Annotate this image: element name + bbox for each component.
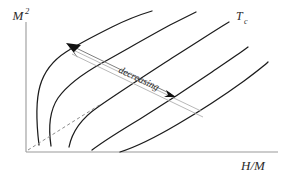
x-axis-label: H/M	[240, 158, 266, 173]
arrott-plot-figure: M 2 H/M T c decreasing	[0, 0, 285, 180]
y-axis-label: M	[12, 8, 25, 23]
critical-temperature-label: T	[236, 9, 244, 23]
decreasing-trend-label: decreasing	[117, 64, 161, 93]
tc-label-group: T c	[236, 9, 248, 26]
isotherm-curve-4	[92, 47, 248, 150]
origin-dashed-line	[28, 104, 101, 150]
guide-line-lower	[72, 54, 203, 117]
y-axis-label-exponent: 2	[25, 6, 30, 16]
critical-temperature-subscript: c	[244, 17, 248, 26]
plot-canvas: M 2 H/M T c decreasing	[0, 0, 285, 180]
y-axis-label-group: M 2	[12, 6, 30, 23]
